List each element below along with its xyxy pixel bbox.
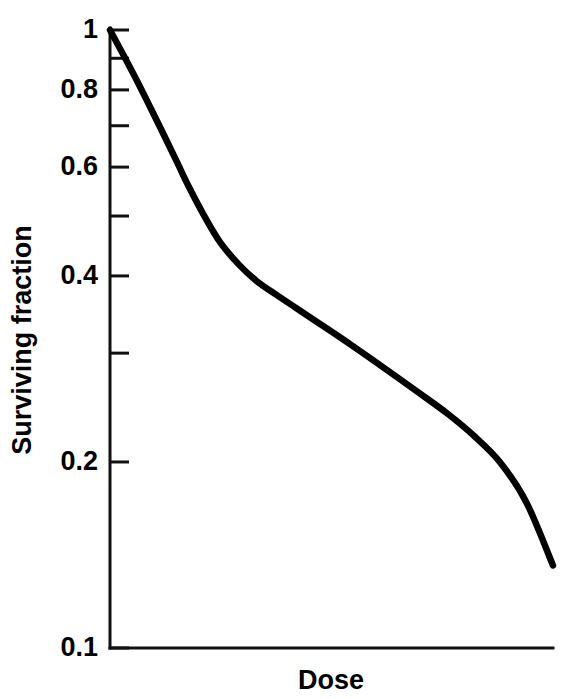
y-axis-title: Surviving fraction xyxy=(7,225,37,455)
y-tick-label: 0.1 xyxy=(60,632,98,662)
y-tick-label: 0.8 xyxy=(60,74,98,104)
y-tick-label: 1 xyxy=(83,14,98,44)
x-axis-title: Dose xyxy=(298,665,364,695)
y-tick-label: 0.6 xyxy=(60,151,98,181)
figure-canvas: Surviving fraction Dose 10.80.60.40.20.1 xyxy=(0,0,561,699)
y-tick-label: 0.2 xyxy=(60,446,98,476)
y-axis-major-ticks xyxy=(110,30,129,648)
survival-curve-line xyxy=(110,30,553,565)
survival-curve-chart: Surviving fraction Dose 10.80.60.40.20.1 xyxy=(0,0,561,699)
y-axis-minor-ticks xyxy=(110,58,129,353)
y-axis-tick-labels: 10.80.60.40.20.1 xyxy=(60,14,98,662)
y-tick-label: 0.4 xyxy=(60,260,98,290)
